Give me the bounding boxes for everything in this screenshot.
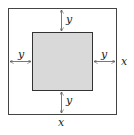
- diagram-canvas: y y y y x x: [0, 0, 134, 135]
- top-border-label: y: [65, 13, 73, 26]
- right-side-label: x: [121, 55, 128, 68]
- bottom-side-label: x: [58, 116, 65, 129]
- right-border-label: y: [100, 48, 108, 61]
- bottom-border-label: y: [65, 94, 73, 107]
- left-border-label: y: [17, 48, 25, 61]
- inner-square: [33, 33, 93, 91]
